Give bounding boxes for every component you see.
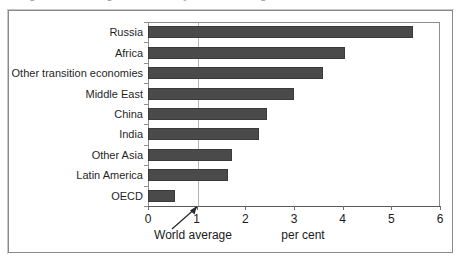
bar-india <box>148 128 259 140</box>
x-tick-mark-6 <box>440 206 441 210</box>
bar-other-transition-economies <box>148 67 323 79</box>
category-tick-8 <box>144 186 148 187</box>
x-tick-label-4: 4 <box>328 212 358 226</box>
bar-africa <box>148 47 345 59</box>
category-label-latin-america: Latin America <box>6 169 148 181</box>
per-cent-axis-label: per cent <box>258 228 348 242</box>
chart-figure: g g y g RussiaAfricaOther transition eco… <box>0 0 457 256</box>
x-tick-mark-0 <box>148 206 149 210</box>
world-average-annotation: World average <box>118 228 268 242</box>
bar-latin-america <box>148 169 228 181</box>
x-tick-mark-2 <box>245 206 246 210</box>
category-label-middle-east: Middle East <box>6 88 148 100</box>
x-tick-mark-4 <box>343 206 344 210</box>
category-tick-7 <box>144 165 148 166</box>
x-tick-label-2: 2 <box>230 212 260 226</box>
x-tick-label-5: 5 <box>376 212 406 226</box>
bar-china <box>148 108 267 120</box>
category-label-other-transition-economies: Other transition economies <box>6 67 148 79</box>
x-tick-mark-3 <box>294 206 295 210</box>
x-tick-label-3: 3 <box>279 212 309 226</box>
bar-middle-east <box>148 88 294 100</box>
category-tick-6 <box>144 145 148 146</box>
category-tick-0 <box>144 22 148 23</box>
category-tick-5 <box>144 124 148 125</box>
category-label-india: India <box>6 128 148 140</box>
x-tick-mark-5 <box>391 206 392 210</box>
bar-other-asia <box>148 149 232 161</box>
category-label-russia: Russia <box>6 26 148 38</box>
category-tick-2 <box>144 63 148 64</box>
category-label-china: China <box>6 108 148 120</box>
category-tick-1 <box>144 42 148 43</box>
bar-russia <box>148 26 413 38</box>
category-label-africa: Africa <box>6 47 148 59</box>
category-label-oecd: OECD <box>6 190 148 202</box>
bar-oecd <box>148 190 175 202</box>
category-tick-3 <box>144 83 148 84</box>
category-tick-4 <box>144 104 148 105</box>
x-tick-label-6: 6 <box>425 212 455 226</box>
category-label-column: RussiaAfricaOther transition economiesMi… <box>0 0 148 256</box>
category-label-other-asia: Other Asia <box>6 149 148 161</box>
